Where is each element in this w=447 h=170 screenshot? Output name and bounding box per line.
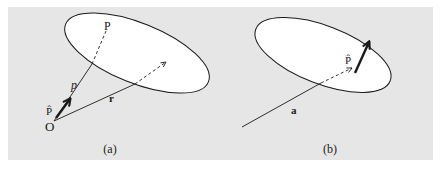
label-p-vector: p	[70, 78, 77, 92]
label-unit-vector-a: P̂	[46, 105, 52, 117]
unit-vector-arrow-a	[56, 99, 70, 118]
caption-b: (b)	[323, 142, 337, 156]
label-r-vector: r	[109, 92, 114, 104]
caption-a: (a)	[103, 142, 116, 156]
panel-a: P p r P̂ O (a)	[45, 0, 220, 156]
label-unit-vector-b: P̂	[345, 54, 351, 66]
a-vector-line	[242, 83, 321, 127]
label-origin: O	[45, 119, 54, 134]
label-point-p: P	[104, 19, 111, 33]
figure-diagram: P p r P̂ O (a) P̂ a (b)	[0, 0, 447, 170]
label-a-vector: a	[291, 104, 297, 116]
plane-ellipse-b	[245, 2, 400, 108]
plane-ellipse-a	[54, 0, 219, 110]
panel-b: P̂ a (b)	[242, 2, 401, 156]
